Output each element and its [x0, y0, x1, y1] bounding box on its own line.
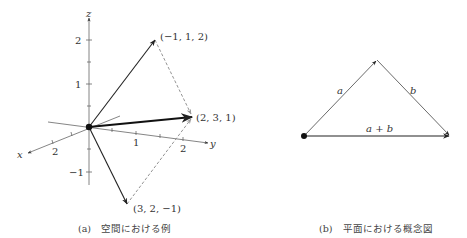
caption-a: (a)空間における例 [78, 221, 171, 235]
caption-b-text: 平面における概念図 [343, 223, 433, 234]
vector-label-b: b [410, 85, 416, 96]
vector-label-3-2-neg1: (3, 2, −1) [133, 203, 181, 214]
figure-b-2d-diagram: a b a + b [301, 60, 449, 139]
x-tick-label-2: 2 [52, 146, 58, 157]
caption-a-text: 空間における例 [101, 223, 171, 234]
z-axis-label: z [85, 8, 92, 19]
vector-label-neg1-1-2: (−1, 1, 2) [160, 31, 208, 42]
dashed-edge-upper [155, 40, 191, 114]
x-axis-label: x [17, 149, 23, 160]
origin-point [86, 124, 92, 130]
x-axis [28, 116, 120, 153]
y-axis-ticks [112, 128, 183, 141]
z-tick-label-1: 1 [75, 79, 81, 90]
start-point [301, 133, 307, 139]
vector-label-2-3-1: (2, 3, 1) [196, 112, 236, 123]
y-tick-label-2: 2 [180, 143, 186, 154]
figure-canvas: z y x 2 1 −1 1 2 2 (−1, 1, 2) (3, 2, −1)… [0, 0, 467, 238]
figure-a-3d-plot: z y x 2 1 −1 1 2 2 (−1, 1, 2) (3, 2, −1)… [17, 8, 236, 214]
vector-label-a-plus-b: a + b [366, 123, 393, 134]
z-tick-label-2: 2 [75, 35, 81, 46]
caption-a-tag: (a) [78, 223, 91, 234]
vector-3-2-neg1 [89, 127, 127, 204]
z-tick-label-neg1: −1 [69, 167, 84, 178]
y-tick-label-1: 1 [133, 137, 139, 148]
caption-b-tag: (b) [319, 223, 333, 234]
y-axis-label: y [209, 138, 216, 149]
dashed-edge-lower [127, 119, 191, 204]
vector-label-a: a [337, 85, 343, 96]
vector-neg1-1-2 [89, 40, 155, 127]
caption-b: (b)平面における概念図 [319, 221, 433, 235]
y-axis [48, 122, 208, 143]
